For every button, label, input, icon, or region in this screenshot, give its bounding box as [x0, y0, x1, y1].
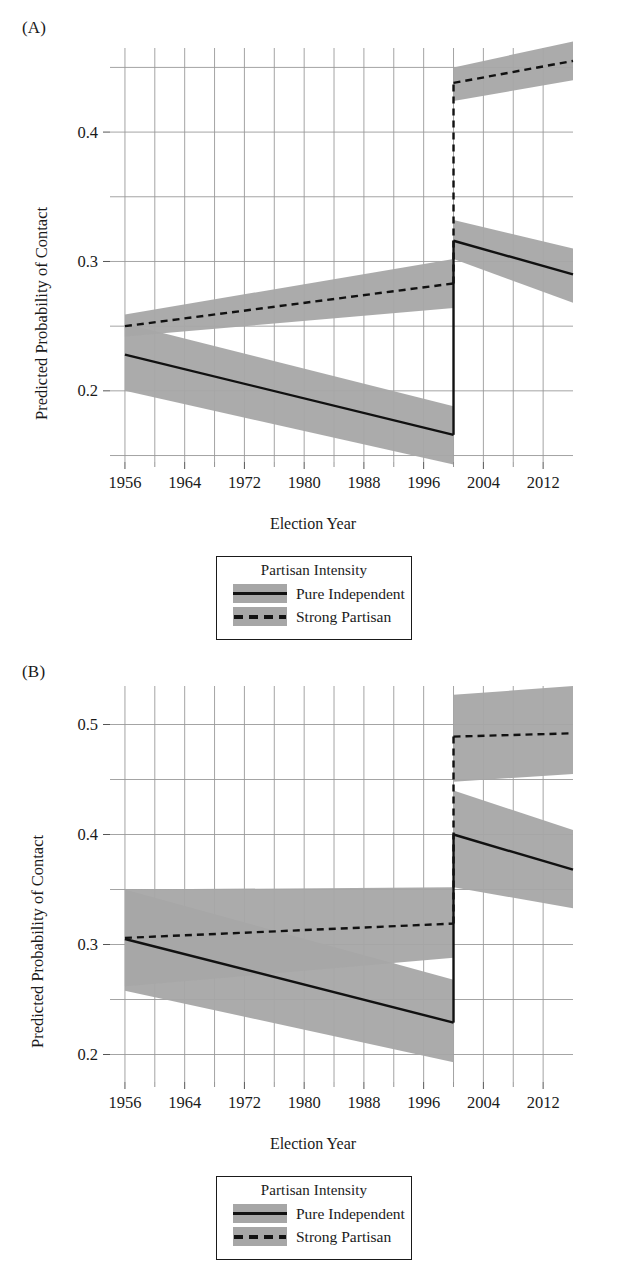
x-tick-label: 2012 — [527, 473, 560, 492]
band-1-0 — [125, 259, 454, 337]
panel-b-legend-title: Partisan Intensity — [217, 1177, 411, 1202]
confidence-bands — [125, 42, 573, 465]
panel-a: (A) Predicted Probability of Contact 0.2… — [0, 0, 626, 648]
x-tick-label: 1956 — [108, 473, 141, 492]
x-tick-label: 1988 — [347, 1093, 380, 1112]
panel-a-x-axis-title: Election Year — [213, 515, 413, 533]
panel-b: (B) Predicted Probability of Contact 0.2… — [0, 648, 626, 1263]
panel-a-legend-row-strong-partisan: Strong Partisan — [217, 605, 411, 628]
y-tick-label: 0.4 — [77, 123, 98, 142]
y-tick-label: 0.3 — [77, 935, 98, 954]
panel-b-plot: 0.20.30.40.51956196419721980198819962004… — [0, 648, 626, 1118]
x-tick-label: 1996 — [407, 473, 440, 492]
y-tick-label: 0.4 — [77, 825, 98, 844]
x-tick-label: 1980 — [288, 1093, 321, 1112]
panel-b-legend-row-pure-independent: Pure Independent — [217, 1202, 411, 1225]
x-tick-label: 1996 — [407, 1093, 440, 1112]
x-tick-label: 1972 — [228, 1093, 261, 1112]
panel-b-legend-label-1: Strong Partisan — [296, 1228, 391, 1246]
x-tick-label: 1972 — [228, 473, 261, 492]
x-tick-label: 2004 — [467, 473, 500, 492]
panel-b-legend-label-0: Pure Independent — [296, 1205, 405, 1223]
x-tick-label: 1964 — [168, 473, 201, 492]
panel-b-legend-row-strong-partisan: Strong Partisan — [217, 1225, 411, 1248]
x-tick-label: 1964 — [168, 1093, 201, 1112]
y-tick-label: 0.2 — [77, 381, 98, 400]
x-tick-label: 2004 — [467, 1093, 500, 1112]
x-tick-label: 1988 — [347, 473, 380, 492]
panel-b-x-axis-title: Election Year — [213, 1135, 413, 1153]
panel-b-legend: Partisan Intensity Pure Independent Stro… — [216, 1176, 412, 1260]
legend-key-solid-icon — [233, 584, 287, 603]
confidence-bands — [125, 686, 573, 1062]
legend-key-dashed-icon — [233, 607, 287, 626]
panel-a-legend-label-1: Strong Partisan — [296, 608, 391, 626]
y-tick-label: 0.2 — [77, 1045, 98, 1064]
panel-a-legend: Partisan Intensity Pure Independent Stro… — [216, 556, 412, 640]
x-tick-label: 1980 — [288, 473, 321, 492]
x-tick-label: 2012 — [527, 1093, 560, 1112]
legend-key-dashed-icon — [233, 1227, 287, 1246]
panel-a-plot: 0.20.30.41956196419721980198819962004201… — [0, 0, 626, 500]
x-tick-label: 1956 — [108, 1093, 141, 1112]
panel-a-legend-title: Partisan Intensity — [217, 557, 411, 582]
legend-key-solid-icon — [233, 1204, 287, 1223]
figure-root: (A) Predicted Probability of Contact 0.2… — [0, 0, 626, 1263]
panel-a-legend-label-0: Pure Independent — [296, 585, 405, 603]
y-tick-label: 0.3 — [77, 252, 98, 271]
y-tick-label: 0.5 — [77, 715, 98, 734]
panel-a-legend-row-pure-independent: Pure Independent — [217, 582, 411, 605]
